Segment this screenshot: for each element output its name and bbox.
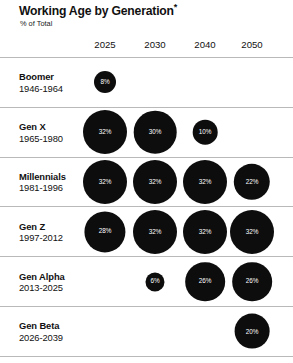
bubble-value-label: 32% [199,179,212,185]
generation-years: 1946-1964 [19,82,63,94]
table-row: Millennials1981-199632%32%32%22% [0,157,293,207]
chart-subtitle: % of Total [20,19,277,29]
bubble-value-label: 30% [149,129,162,135]
data-bubble: 26% [232,262,272,302]
table-row: Gen Z1997-201228%32%32%32% [0,206,293,256]
row-label-gen-z: Gen Z1997-2012 [19,220,63,243]
generation-years: 1965-1980 [19,132,63,144]
data-bubble: 22% [234,164,270,200]
chart-header: Working Age by Generation* % of Total [19,4,277,29]
column-header-2030: 2030 [144,39,165,51]
data-bubble: 32% [83,110,127,154]
row-label-millennials: Millennials1981-1996 [19,170,66,193]
footnote-marker: * [174,2,177,12]
generation-name: Gen Beta [19,320,63,332]
bubble-value-label: 26% [246,278,259,284]
data-bubble: 32% [133,160,177,204]
bubble-value-label: 32% [149,229,162,235]
data-bubble: 32% [183,160,227,204]
generation-name: Gen X [19,121,63,133]
column-header-row: 2025203020402050 [0,39,293,57]
bubble-value-label: 26% [199,278,212,284]
generation-years: 1997-2012 [19,232,63,244]
generation-years: 2013-2025 [19,282,65,294]
data-bubble: 10% [193,120,218,145]
chart-container: Working Age by Generation* % of Total 20… [0,0,293,363]
column-header-2040: 2040 [194,39,215,51]
bubble-value-label: 32% [99,129,112,135]
data-bubble: 26% [185,262,225,302]
table-row: Gen Alpha2013-20256%26%26% [0,256,293,306]
generation-name: Gen Z [19,220,63,232]
page-title: Working Age by Generation* [19,4,277,18]
bubble-value-label: 22% [246,179,259,185]
table-row: Gen Beta2026-203920% [0,306,293,357]
column-header-2025: 2025 [94,39,115,51]
chart-title-text: Working Age by Generation [19,4,174,18]
table-row: Boomer1946-19648% [0,57,293,107]
bubble-value-label: 32% [246,229,259,235]
bubble-value-label: 32% [149,179,162,185]
row-label-gen-beta: Gen Beta2026-2039 [19,320,63,343]
chart-rows: Boomer1946-19648%Gen X1965-198032%30%10%… [0,57,293,357]
data-bubble: 30% [134,111,177,154]
generation-years: 1981-1996 [19,182,66,194]
bubble-value-label: 32% [199,229,212,235]
bubble-value-label: 10% [199,129,212,135]
generation-years: 2026-2039 [19,331,63,343]
row-label-gen-alpha: Gen Alpha2013-2025 [19,270,65,293]
bubble-value-label: 32% [99,179,112,185]
bubble-value-label: 28% [99,229,112,235]
data-bubble: 28% [84,211,125,252]
data-bubble: 32% [230,210,274,254]
row-label-boomer: Boomer1946-1964 [19,71,63,94]
data-bubble: 32% [83,160,127,204]
bubble-value-label: 8% [100,79,109,85]
column-header-2050: 2050 [241,39,262,51]
row-label-gen-x: Gen X1965-1980 [19,121,63,144]
bubble-value-label: 20% [246,328,259,334]
table-row: Gen X1965-198032%30%10% [0,107,293,157]
data-bubble: 32% [183,210,227,254]
generation-name: Millennials [19,170,66,182]
generation-name: Gen Alpha [19,270,65,282]
bubble-value-label: 6% [150,278,159,284]
data-bubble: 32% [133,210,177,254]
data-bubble: 6% [145,272,164,291]
data-bubble: 8% [94,71,116,93]
data-bubble: 20% [235,314,270,349]
generation-name: Boomer [19,71,63,83]
